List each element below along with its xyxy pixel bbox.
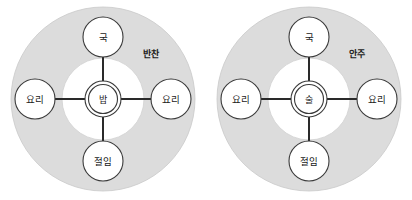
ring-label: 안주 — [349, 49, 365, 59]
node-right-label: 요리 — [368, 94, 386, 105]
node-bottom-label: 절임 — [300, 156, 318, 167]
center-label: 술 — [305, 95, 313, 105]
node-top-label: 국 — [99, 32, 108, 43]
node-bottom-label: 절임 — [94, 156, 112, 167]
diagram-meal-structure: 국 요리 요리 절임 밥 반찬 — [0, 0, 206, 200]
center-label: 밥 — [99, 95, 107, 105]
node-left-label: 요리 — [232, 94, 250, 105]
figure-canvas: 국 요리 요리 절임 밥 반찬 — [0, 0, 412, 200]
node-left-label: 요리 — [26, 94, 44, 105]
node-right-label: 요리 — [162, 94, 180, 105]
ring-label: 반찬 — [143, 48, 160, 59]
diagram-drink-structure: 국 요리 요리 절임 술 안주 — [206, 0, 412, 200]
node-top-label: 국 — [305, 32, 314, 43]
